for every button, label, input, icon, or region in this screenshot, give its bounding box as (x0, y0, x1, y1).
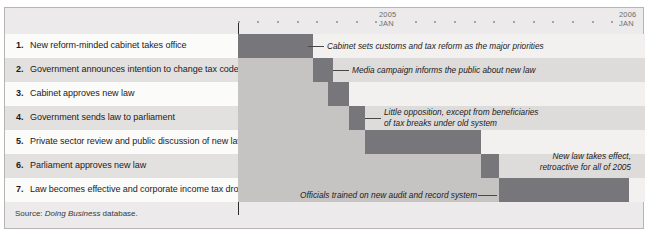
axis-tick (592, 21, 594, 23)
annotation-new-law-effect: New law takes effect, retroactive for al… (475, 151, 631, 172)
annotation-leader (333, 70, 349, 71)
axis-month-2005: JAN (379, 19, 397, 28)
annotation-leader (478, 195, 497, 196)
axis-tick (336, 21, 338, 23)
axis-tick (474, 21, 476, 23)
row-label-cell: 3. Cabinet approves new law (5, 82, 238, 106)
row-label-cell: 2. Government announces intention to cha… (5, 58, 238, 82)
annotation-line: Officials trained on new audit and recor… (300, 190, 477, 200)
row-number: 6. (16, 160, 24, 170)
row-label-cell: 1. New reform-minded cabinet takes offic… (5, 34, 238, 58)
row-label-cell: 6. Parliament approves new law (5, 154, 238, 178)
row-label: Private sector review and public discuss… (30, 136, 244, 146)
annotation-line: of tax breaks under old system (384, 118, 497, 128)
annotation-leader (365, 118, 381, 119)
source-prefix: Source: (15, 209, 45, 218)
axis-tick (552, 21, 554, 23)
axis-year-2005: 2005 (379, 10, 397, 19)
axis-tick (316, 21, 318, 23)
axis-tick (375, 21, 377, 23)
axis-tick (257, 21, 259, 23)
row-number: 3. (16, 88, 24, 98)
gantt-bar-light (238, 130, 365, 154)
gantt-rows: 1. New reform-minded cabinet takes offic… (5, 34, 645, 204)
annotation-media-campaign: Media campaign informs the public about … (352, 65, 536, 76)
axis-tick (434, 21, 436, 23)
gantt-bar-light (238, 154, 481, 178)
row-label: New reform-minded cabinet takes office (30, 40, 187, 50)
annotation-leader (308, 46, 324, 47)
table-row: 4. Government sends law to parliament (5, 106, 645, 130)
gantt-bar-dark[interactable] (499, 178, 629, 202)
gantt-bar-dark[interactable] (238, 34, 313, 58)
axis-label-2006: 2006 JAN (619, 10, 637, 28)
row-number: 7. (16, 184, 24, 194)
gantt-bar-dark[interactable] (328, 82, 349, 106)
row-label-cell: 4. Government sends law to parliament (5, 106, 238, 130)
axis-label-2005: 2005 JAN (379, 10, 397, 28)
row-label-cell: 7. Law becomes effective and corporate i… (5, 178, 238, 202)
axis-tick (297, 21, 299, 23)
axis-tick (415, 21, 417, 23)
axis-month-2006: JAN (619, 19, 637, 28)
annotation-line: retroactive for all of 2005 (540, 162, 631, 172)
row-number: 4. (16, 112, 24, 122)
table-row: 1. New reform-minded cabinet takes offic… (5, 34, 645, 58)
source-note: Source: Doing Business database. (15, 209, 138, 218)
gantt-bar-dark[interactable] (313, 58, 333, 82)
table-row: 3. Cabinet approves new law (5, 82, 645, 106)
annotation-line: Media campaign informs the public about … (352, 65, 536, 75)
axis-tick (277, 21, 279, 23)
row-number: 5. (16, 136, 24, 146)
source-database-name: Doing Business (45, 209, 101, 218)
axis-tick (513, 21, 515, 23)
table-row: 2. Government announces intention to cha… (5, 58, 645, 82)
row-label: Parliament approves new law (30, 160, 146, 170)
annotation-cabinet-priorities: Cabinet sets customs and tax reform as t… (327, 41, 544, 52)
axis-tick (454, 21, 456, 23)
gantt-bar-dark[interactable] (349, 106, 365, 130)
row-label: Government sends law to parliament (30, 112, 175, 122)
axis-tick (356, 21, 358, 23)
gantt-bar-light (238, 82, 328, 106)
annotation-line: New law takes effect, (553, 151, 631, 161)
gantt-bar-light (238, 106, 349, 130)
axis-tick (611, 21, 613, 23)
row-label: Cabinet approves new law (30, 88, 134, 98)
gantt-bar-light (238, 58, 313, 82)
chart-panel: 2005 JAN 2006 JAN 1. New reform-minded c… (4, 7, 644, 229)
source-suffix: database. (100, 209, 137, 218)
axis-tick (493, 21, 495, 23)
axis-tick (572, 21, 574, 23)
gantt-bar-dark[interactable] (365, 130, 481, 154)
row-label: Government announces intention to change… (30, 64, 239, 74)
annotation-line: Little opposition, except from beneficia… (384, 107, 539, 117)
annotation-little-opposition: Little opposition, except from beneficia… (384, 107, 539, 128)
annotation-line: Cabinet sets customs and tax reform as t… (327, 41, 544, 51)
annotation-officials-trained: Officials trained on new audit and recor… (300, 190, 477, 201)
row-label-cell: 5. Private sector review and public disc… (5, 130, 238, 154)
axis-tick (533, 21, 535, 23)
axis-year-2006: 2006 (619, 10, 637, 19)
row-number: 2. (16, 64, 24, 74)
gantt-figure: 2005 JAN 2006 JAN 1. New reform-minded c… (0, 0, 649, 235)
row-number: 1. (16, 40, 24, 50)
page-top-sliver (0, 0, 649, 6)
